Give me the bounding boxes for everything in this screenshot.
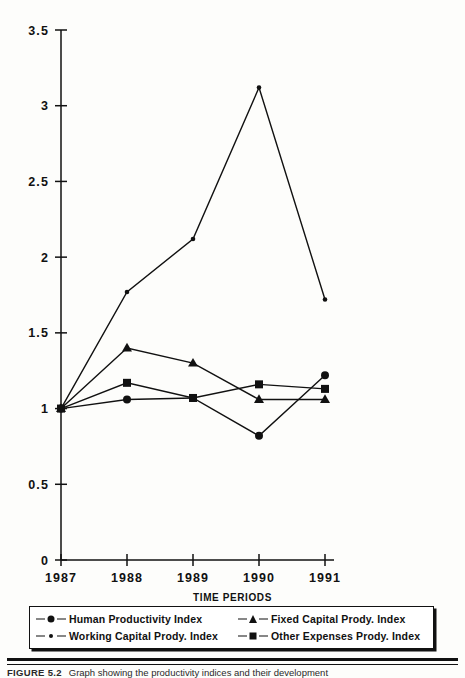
figure-caption-text: Graph showing the productivity indices a… <box>69 667 328 678</box>
series-data-point <box>321 371 329 379</box>
series-data-point <box>257 85 262 90</box>
series-data-point <box>191 237 196 242</box>
series-data-point <box>189 394 197 402</box>
triangle-marker-icon <box>238 613 268 625</box>
y-tick-label: 3.5 <box>28 24 49 38</box>
chart-canvas: 00.511.522.533.519871988198919901991 <box>0 0 465 595</box>
series-data-point <box>255 432 263 440</box>
series-data-point <box>122 343 132 352</box>
figure-caption: FIGURE 5.2Graph showing the productivity… <box>7 667 458 678</box>
y-tick-label: 3 <box>41 99 49 113</box>
legend-label: Human Productivity Index <box>69 613 202 625</box>
x-tick-label: 1991 <box>309 571 341 585</box>
line-chart: 00.511.522.533.519871988198919901991 <box>0 0 465 595</box>
x-tick-label: 1987 <box>45 571 77 585</box>
square-marker-icon <box>238 630 268 642</box>
y-tick-label: 0.5 <box>28 478 49 492</box>
series-data-point <box>323 297 328 302</box>
series-data-point <box>254 394 264 403</box>
legend-label: Fixed Capital Prody. Index <box>271 613 405 625</box>
y-tick-label: 1 <box>41 402 49 416</box>
legend-label: Working Capital Prody. Index <box>69 630 218 642</box>
chart-tick-labels: 00.511.522.533.519871988198919901991 <box>28 24 341 586</box>
chart-axes <box>55 30 334 566</box>
series-data-point <box>123 395 131 403</box>
legend-row: Human Productivity Index Fixed Capital P… <box>36 610 427 627</box>
legend-row: Working Capital Prody. Index Other Expen… <box>36 627 427 644</box>
dot-marker-icon <box>36 630 66 642</box>
chart-legend: Human Productivity Index Fixed Capital P… <box>29 606 434 649</box>
footer-rule-top <box>7 658 458 661</box>
y-tick-label: 1.5 <box>28 326 49 340</box>
series-data-point <box>321 385 329 393</box>
y-tick-label: 2 <box>41 251 49 265</box>
series-data-point <box>320 394 330 403</box>
x-tick-label: 1990 <box>243 571 275 585</box>
chart-series <box>56 85 330 440</box>
figure-number: FIGURE 5.2 <box>7 667 62 678</box>
circle-marker-icon <box>36 613 66 625</box>
x-tick-label: 1988 <box>111 571 143 585</box>
series-data-point <box>125 290 130 295</box>
y-tick-label: 0 <box>41 554 49 568</box>
series-data-point <box>57 405 65 413</box>
legend-label: Other Expenses Prody. Index <box>271 630 420 642</box>
footer-rule-bottom <box>7 664 458 665</box>
legend-item-other-expenses-prody-index: Other Expenses Prody. Index <box>238 630 427 642</box>
y-tick-label: 2.5 <box>28 175 49 189</box>
series-line <box>61 375 325 436</box>
legend-item-working-capital-prody-index: Working Capital Prody. Index <box>36 630 238 642</box>
legend-item-human-productivity-index: Human Productivity Index <box>36 613 238 625</box>
x-tick-label: 1989 <box>177 571 209 585</box>
x-axis-title: TIME PERIODS <box>0 592 465 603</box>
legend-item-fixed-capital-prody-index: Fixed Capital Prody. Index <box>238 613 427 625</box>
series-data-point <box>123 379 131 387</box>
series-data-point <box>255 380 263 388</box>
